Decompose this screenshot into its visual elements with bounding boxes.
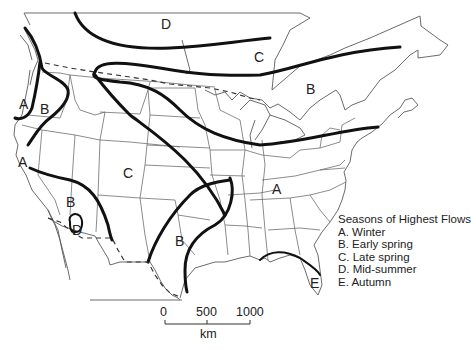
gulf-coast — [180, 245, 322, 298]
dashed-boundary-southwest — [48, 218, 180, 297]
zone-label-d-southwest: D — [72, 223, 82, 237]
zone-boundary-b-north-loop — [94, 72, 378, 145]
zone-label-c-central: C — [123, 166, 133, 180]
legend: Seasons of Highest Flows A. Winter B. Ea… — [338, 213, 471, 288]
zone-boundary-c-b — [95, 47, 400, 75]
zone-label-a-northwest: A — [19, 97, 28, 111]
zone-label-a-east: A — [272, 182, 281, 196]
zone-boundary-florida — [260, 252, 320, 275]
legend-item-c: C. Late spring — [338, 251, 471, 264]
legend-item-e: E. Autumn — [338, 276, 471, 289]
zone-label-d-north: D — [161, 17, 171, 31]
zone-label-b-southwest: B — [66, 195, 75, 209]
legend-title: Seasons of Highest Flows — [338, 213, 471, 226]
scale-unit: km — [200, 327, 217, 341]
legend-item-a: A. Winter — [338, 226, 471, 239]
zone-label-b-northeast: B — [306, 82, 315, 96]
zone-label-b-texas: B — [175, 234, 184, 248]
us-mexico-border — [48, 218, 180, 300]
scale-tick-500: 500 — [196, 305, 217, 319]
zone-label-a-california: A — [18, 155, 27, 169]
legend-item-d: D. Mid-summer — [338, 263, 471, 276]
scale-tick-0: 0 — [160, 305, 167, 319]
zone-label-c-north: C — [254, 50, 264, 64]
legend-item-b: B. Early spring — [338, 238, 471, 251]
zone-boundary-texas-east — [185, 178, 232, 292]
zone-boundary-d-c — [75, 13, 270, 48]
zone-label-b-northwest: B — [40, 102, 49, 116]
zone-label-e-florida: E — [310, 276, 319, 290]
scale-tick-1000: 1000 — [236, 305, 264, 319]
